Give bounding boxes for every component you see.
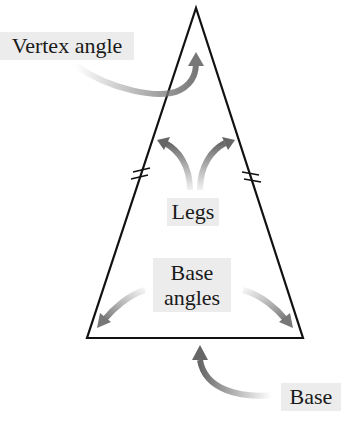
base-angles-label-line2: angles [153,285,231,310]
vertex-angle-label: Vertex angle [0,32,134,60]
base-arrow [192,345,272,396]
base-label: Base [281,383,341,411]
base-angles-label: Base angles [153,258,231,312]
legs-arrows [157,137,235,190]
base-angles-label-line1: Base [153,260,231,285]
tick-marks [131,168,261,182]
legs-label: Legs [167,198,219,226]
